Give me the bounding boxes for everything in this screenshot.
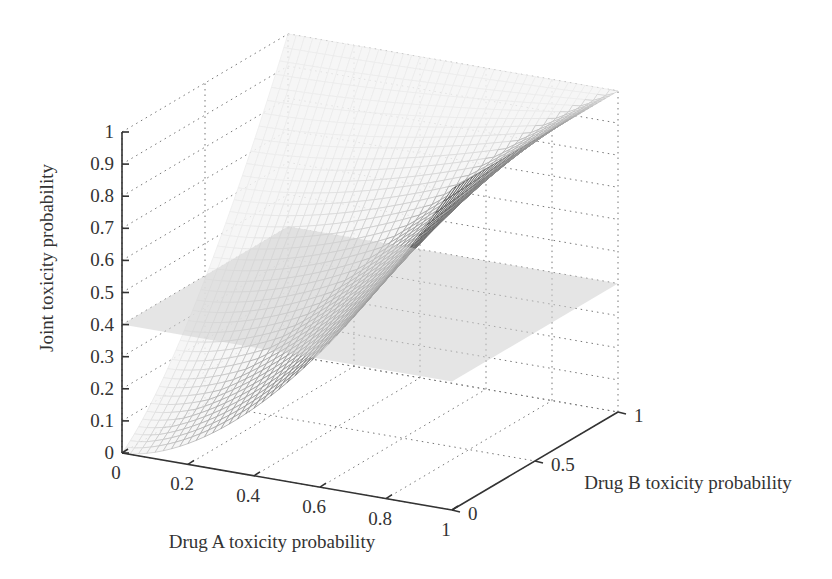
x-axis-title: Drug A toxicity probability — [169, 531, 376, 552]
y-tick-label: 0.5 — [551, 454, 575, 475]
grid-line — [254, 378, 420, 476]
z-axis-ticks: 00.10.20.30.40.50.60.70.80.91 — [90, 121, 129, 463]
surface-chart: 00.10.20.30.40.50.60.70.80.91 00.20.40.6… — [0, 0, 832, 579]
grid-line — [205, 404, 535, 461]
z-tick-label: 0.9 — [90, 153, 114, 174]
y-axis-title: Drug B toxicity probability — [584, 472, 792, 493]
x-tick-mark — [452, 506, 458, 510]
z-tick-label: 1 — [105, 121, 115, 142]
x-axis-ticks: 00.20.40.60.81 — [111, 449, 458, 540]
y-tick-mark — [618, 412, 626, 414]
z-tick-label: 0.2 — [90, 378, 114, 399]
y-tick-mark — [535, 461, 543, 463]
x-tick-label: 1 — [441, 519, 451, 540]
z-tick-label: 0.6 — [90, 249, 114, 270]
x-tick-label: 0.4 — [236, 485, 260, 506]
z-tick-label: 0 — [105, 442, 115, 463]
x-tick-mark — [188, 460, 194, 464]
z-tick-label: 0.3 — [90, 346, 114, 367]
x-tick-label: 0 — [111, 462, 121, 483]
x-tick-label: 0.2 — [170, 473, 194, 494]
x-tick-label: 0.6 — [302, 496, 326, 517]
z-tick-label: 0.7 — [90, 217, 114, 238]
z-tick-label: 0.8 — [90, 185, 114, 206]
grid-line — [320, 389, 486, 487]
y-tick-mark — [452, 510, 460, 512]
grid-line — [386, 401, 552, 499]
z-tick-label: 0.5 — [90, 282, 114, 303]
z-tick-label: 0.1 — [90, 410, 114, 431]
y-tick-label: 0 — [468, 503, 478, 524]
x-tick-mark — [320, 483, 326, 487]
y-tick-label: 1 — [634, 405, 644, 426]
x-tick-mark — [386, 495, 392, 499]
x-tick-mark — [254, 472, 260, 476]
z-tick-label: 0.4 — [90, 314, 114, 335]
z-axis-title: Joint toxicity probability — [36, 164, 57, 352]
x-tick-label: 0.8 — [368, 508, 392, 529]
y-axis-ticks: 00.51 — [452, 405, 644, 524]
